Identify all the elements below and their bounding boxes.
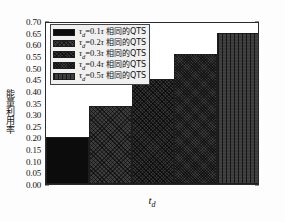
legend-swatch — [53, 62, 75, 69]
bar — [174, 54, 217, 184]
legend-swatch — [53, 51, 75, 58]
y-tick-label: 0.70 — [26, 18, 41, 27]
legend-swatch — [53, 73, 75, 80]
y-tick-label: 0.65 — [26, 29, 41, 38]
legend-item: τd=0.5τ 相同的QTS — [53, 71, 146, 82]
y-tick-label: 0.55 — [26, 52, 41, 61]
x-axis-label-sub: d — [152, 200, 156, 209]
y-tick-label: 0.20 — [26, 134, 41, 143]
legend-swatch — [53, 40, 75, 47]
y-axis-label: 能量利用率 — [2, 81, 15, 141]
y-tick-label: 0.15 — [26, 146, 41, 155]
bar — [89, 106, 132, 184]
y-tick-label: 0.35 — [26, 99, 41, 108]
x-axis-label: td — [45, 194, 259, 209]
y-tick-label: 0.50 — [26, 64, 41, 73]
legend-swatch — [53, 29, 75, 36]
chart-figure: 0.700.650.600.550.500.450.400.350.300.25… — [0, 0, 285, 222]
y-tick-label: 0.10 — [26, 157, 41, 166]
chart-legend: τd=0.1τ 相同的QTSτd=0.2τ 相同的QTSτd=0.3τ 相同的Q… — [50, 24, 150, 85]
bar — [46, 137, 89, 184]
y-tick-label: 0.05 — [26, 169, 41, 178]
y-tick-label: 0.25 — [26, 122, 41, 131]
bar — [217, 33, 259, 184]
y-tick-label: 0.45 — [26, 76, 41, 85]
y-tick-label: 0.40 — [26, 87, 41, 96]
y-tick-label: 0.60 — [26, 41, 41, 50]
legend-label: τd=0.5τ 相同的QTS — [79, 71, 146, 83]
bar — [132, 79, 175, 184]
y-tick-label: 0.30 — [26, 111, 41, 120]
y-tick-label: 0.00 — [26, 181, 41, 190]
